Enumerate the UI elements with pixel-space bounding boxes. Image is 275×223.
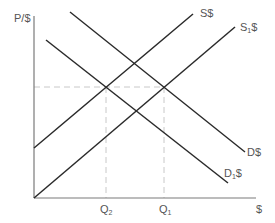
tick-label-q2: Q2	[100, 204, 112, 216]
demand-curve-d	[70, 12, 245, 152]
supply-demand-diagram	[0, 0, 275, 223]
curve-label-s: S$	[200, 8, 213, 19]
supply-curve-s	[34, 14, 193, 148]
curve-label-d1: D1$	[224, 168, 242, 180]
y-axis-label: P/$	[14, 13, 31, 24]
supply-curve-s1	[34, 27, 235, 198]
x-axis-label: $	[256, 204, 262, 215]
curve-label-s1: S1$	[240, 22, 257, 34]
tick-label-q1: Q1	[159, 204, 171, 216]
curve-label-d: D$	[247, 147, 261, 158]
